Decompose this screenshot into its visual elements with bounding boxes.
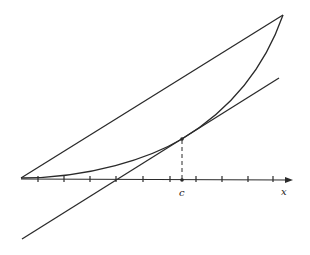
c-point [180,178,184,182]
convexity-diagram [0,0,310,255]
x-axis [21,176,293,183]
label-x: x [281,186,287,197]
axis-arrow-icon [285,177,293,183]
label-c: c [179,187,185,198]
tangent-point [180,137,184,141]
tangent-line [22,78,279,239]
